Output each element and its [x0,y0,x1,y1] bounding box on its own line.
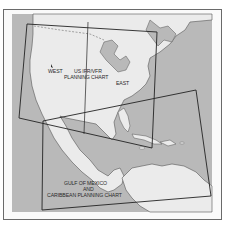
puerto-rico-island [180,142,185,144]
gulf-label-line3: CARIBBEAN PLANNING CHART [47,192,122,198]
west-label: WEST [48,68,63,74]
jamaica-island [139,147,145,149]
us-chart-label-line2: PLANNING CHART [64,74,108,80]
east-label: EAST [116,80,129,86]
